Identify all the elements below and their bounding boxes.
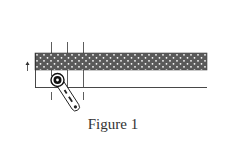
figure-caption: Figure 1 <box>0 116 226 133</box>
rotary-cutter-icon <box>51 74 81 113</box>
fabric-strip <box>35 53 207 70</box>
arrow-up-icon <box>26 62 30 72</box>
